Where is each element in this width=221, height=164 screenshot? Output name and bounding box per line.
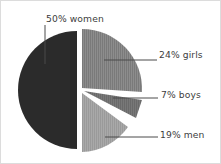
pie-label-women: 50% women	[46, 13, 104, 24]
pie-label-girls: 24% girls	[159, 49, 203, 60]
pie-label-men: 19% men	[160, 129, 204, 140]
pie-label-boys: 7% boys	[161, 89, 201, 100]
chart-figure: 50% women 24% girls 7% boys 19% men	[0, 0, 221, 164]
pie-slice-women[interactable]	[18, 31, 77, 149]
